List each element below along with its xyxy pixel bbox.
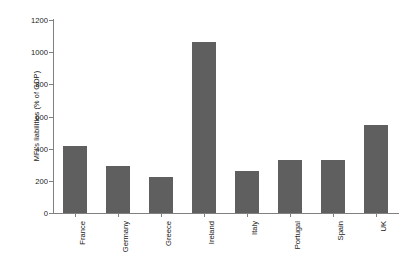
y-tick-label: 0 bbox=[44, 209, 48, 218]
y-tick-mark bbox=[49, 149, 53, 150]
x-tick-mark bbox=[333, 213, 334, 217]
x-tick-label: Ireland bbox=[207, 194, 216, 219]
x-tick-mark bbox=[75, 213, 76, 217]
x-tick-mark bbox=[247, 213, 248, 217]
x-tick-label: UK bbox=[379, 206, 388, 219]
y-tick-mark bbox=[49, 213, 53, 214]
x-tick-label-text: Portugal bbox=[293, 219, 302, 249]
y-tick-label: 400 bbox=[35, 144, 48, 153]
x-tick-label: Greece bbox=[164, 192, 173, 219]
y-tick-label: 600 bbox=[35, 112, 48, 121]
x-tick-label-text: Germany bbox=[121, 219, 130, 252]
x-tick-mark bbox=[161, 213, 162, 217]
bar-ireland bbox=[192, 42, 216, 213]
plot-area: 020040060080010001200 FranceGermanyGreec… bbox=[53, 20, 398, 213]
x-tick-mark bbox=[204, 213, 205, 217]
x-tick-label-text: France bbox=[78, 219, 87, 245]
y-tick-label: 200 bbox=[35, 176, 48, 185]
y-tick-label: 1200 bbox=[31, 16, 48, 25]
x-tick-label-text: Italy bbox=[250, 219, 259, 235]
x-tick-mark bbox=[290, 213, 291, 217]
y-tick-mark bbox=[49, 84, 53, 85]
y-tick-mark bbox=[49, 181, 53, 182]
x-tick-label: Italy bbox=[250, 203, 259, 219]
x-tick-label: Spain bbox=[336, 198, 345, 219]
x-axis-line bbox=[53, 213, 399, 214]
x-tick-label-text: UK bbox=[379, 219, 388, 232]
x-tick-label: France bbox=[78, 193, 87, 219]
x-tick-label-text: Ireland bbox=[207, 219, 216, 244]
x-tick-label-text: Greece bbox=[164, 219, 173, 246]
y-tick-mark bbox=[49, 20, 53, 21]
y-tick-mark bbox=[49, 117, 53, 118]
x-tick-label: Portugal bbox=[293, 189, 302, 219]
x-tick-label: Germany bbox=[121, 186, 130, 219]
bar-chart: MFI's liabilities (% of GDP) 02004006008… bbox=[0, 0, 417, 263]
y-tick-label: 1000 bbox=[31, 48, 48, 57]
x-tick-mark bbox=[118, 213, 119, 217]
x-tick-mark bbox=[376, 213, 377, 217]
bar-uk bbox=[364, 125, 388, 213]
y-tick-mark bbox=[49, 52, 53, 53]
y-tick-label: 800 bbox=[35, 80, 48, 89]
x-tick-label-text: Spain bbox=[336, 219, 345, 240]
